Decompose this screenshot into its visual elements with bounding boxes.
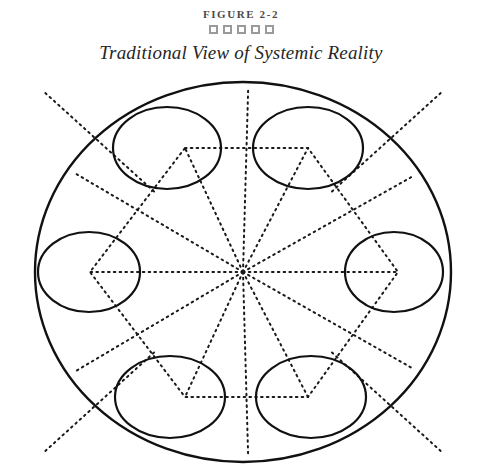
ray-to-node-bottom-left xyxy=(185,272,243,397)
ray-intermediate-3 xyxy=(243,272,414,369)
ray-to-node-bottom-right xyxy=(243,272,308,397)
ray-intermediate-2 xyxy=(243,175,415,272)
square-ornament-icon xyxy=(223,25,232,34)
systemic-reality-diagram xyxy=(0,72,482,475)
diagram-canvas xyxy=(0,72,482,475)
ornament-row xyxy=(0,25,482,36)
square-ornament-icon xyxy=(209,25,218,34)
ray-to-node-top-right xyxy=(243,148,308,272)
ray-intermediate-4 xyxy=(243,272,248,456)
square-ornament-icon xyxy=(237,25,246,34)
square-ornament-icon xyxy=(265,25,274,34)
square-ornament-icon xyxy=(251,25,260,34)
figure-number-label: FIGURE 2-2 xyxy=(0,8,482,21)
figure-header: FIGURE 2-2 Traditional View of Systemic … xyxy=(0,0,482,64)
ray-intermediate-6 xyxy=(73,172,243,272)
figure-title: Traditional View of Systemic Reality xyxy=(0,41,482,64)
figure-page: FIGURE 2-2 Traditional View of Systemic … xyxy=(0,0,482,475)
ray-intermediate-1 xyxy=(243,88,248,272)
